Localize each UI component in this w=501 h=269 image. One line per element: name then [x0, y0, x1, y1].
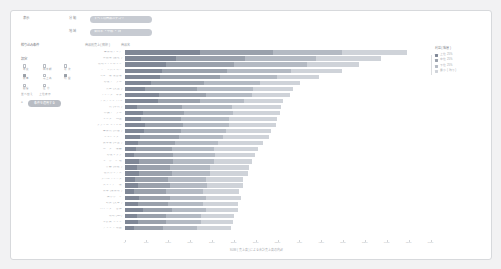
bar-segment[interactable]: [158, 99, 200, 103]
bar-segment[interactable]: [145, 87, 197, 91]
bar-segment[interactable]: [200, 99, 245, 103]
bar-segment[interactable]: [182, 105, 232, 109]
bar-segment[interactable]: [162, 69, 227, 73]
bar-row[interactable]: 収納キャビネット: [83, 62, 431, 68]
checkbox-item[interactable]: 区 分: [43, 84, 62, 91]
bar-segment[interactable]: [245, 56, 316, 60]
bar-row[interactable]: バインダー 各種: [83, 207, 431, 213]
bar-row[interactable]: 筆記具 セット: [83, 219, 431, 225]
bar-row[interactable]: ノートパソコン: [83, 68, 431, 74]
bar-segment[interactable]: [125, 208, 143, 212]
bar-segment[interactable]: [166, 214, 200, 218]
bar-segment[interactable]: [233, 111, 280, 115]
bar-segment[interactable]: [173, 159, 213, 163]
bar-segment[interactable]: [144, 129, 182, 133]
checkbox-item[interactable]: 顧 客: [23, 84, 42, 91]
bar-segment[interactable]: [166, 189, 203, 193]
bar-segment[interactable]: [125, 177, 135, 181]
bar-segment[interactable]: [125, 50, 200, 54]
bar-segment[interactable]: [229, 117, 278, 121]
bar-segment[interactable]: [125, 135, 141, 139]
bar-segment[interactable]: [206, 93, 252, 97]
bar-segment[interactable]: [220, 75, 278, 79]
bar-row[interactable]: 封筒 ( 大量 ): [83, 201, 431, 207]
bar-segment[interactable]: [214, 147, 259, 151]
bar-segment[interactable]: [183, 123, 229, 127]
bar-segment[interactable]: [273, 50, 342, 54]
bar-segment[interactable]: [214, 159, 252, 163]
checkbox-item[interactable]: 四半期: [43, 64, 62, 71]
bar-segment[interactable]: [125, 196, 140, 200]
bar-segment[interactable]: [181, 129, 226, 133]
bar-segment[interactable]: [125, 81, 151, 85]
bar-row[interactable]: ラベルプリンタ: [83, 176, 431, 182]
bar-row[interactable]: 保管ボックス: [83, 170, 431, 176]
bar-row[interactable]: デスクトップ PC: [83, 98, 431, 104]
bar-segment[interactable]: [125, 147, 136, 151]
bar-segment[interactable]: [253, 87, 293, 91]
bar-segment[interactable]: [226, 129, 271, 133]
bar-segment[interactable]: [125, 141, 139, 145]
bar-segment[interactable]: [168, 202, 203, 206]
bar-segment[interactable]: [206, 177, 244, 181]
bar-segment[interactable]: [203, 189, 239, 193]
bar-segment[interactable]: [138, 202, 169, 206]
bar-segment[interactable]: [291, 69, 343, 73]
bar-segment[interactable]: [232, 105, 281, 109]
bar-segment[interactable]: [200, 50, 273, 54]
bar-segment[interactable]: [316, 56, 381, 60]
bar-segment[interactable]: [125, 226, 135, 230]
bar-row[interactable]: プリンター本体: [83, 92, 431, 98]
bar-segment[interactable]: [125, 183, 139, 187]
bar-segment[interactable]: [138, 183, 169, 187]
checkbox-item[interactable]: 利 益: [64, 74, 83, 81]
bar-segment[interactable]: [137, 105, 182, 109]
bar-segment[interactable]: [139, 159, 173, 163]
bar-segment[interactable]: [137, 214, 167, 218]
bar-row[interactable]: クリップ 用品: [83, 225, 431, 231]
bar-segment[interactable]: [138, 220, 167, 224]
bar-segment[interactable]: [175, 141, 218, 145]
bar-segment[interactable]: [134, 153, 172, 157]
bar-segment[interactable]: [143, 208, 172, 212]
bar-row[interactable]: 机 ( 平机 ): [83, 104, 431, 110]
bar-segment[interactable]: [176, 56, 245, 60]
filter-dropdown-region[interactable]: 東日本 ・ 中部 ・ 西: [90, 29, 152, 36]
bar-segment[interactable]: [139, 196, 170, 200]
bar-row[interactable]: ファイル キャビネ: [83, 122, 431, 128]
bar-segment[interactable]: [203, 202, 238, 206]
bar-row[interactable]: シュレッダー: [83, 134, 431, 140]
bar-segment[interactable]: [218, 141, 263, 145]
bar-segment[interactable]: [252, 93, 290, 97]
bar-row[interactable]: 電卓 ( 業務用 ): [83, 189, 431, 195]
apply-filters-button[interactable]: 条件を適用する: [28, 100, 61, 107]
bar-row[interactable]: 事務用チェア: [83, 50, 431, 56]
bar-segment[interactable]: [223, 135, 268, 139]
bar-segment[interactable]: [215, 153, 255, 157]
bar-row[interactable]: 応接ソファ: [83, 152, 431, 158]
bar-segment[interactable]: [210, 165, 248, 169]
bar-segment[interactable]: [172, 208, 206, 212]
bar-segment[interactable]: [143, 111, 184, 115]
bar-segment[interactable]: [125, 117, 142, 121]
bar-segment[interactable]: [166, 62, 233, 66]
bar-segment[interactable]: [125, 159, 140, 163]
bar-segment[interactable]: [125, 123, 145, 127]
bar-segment[interactable]: [125, 214, 137, 218]
bar-segment[interactable]: [139, 171, 171, 175]
filter-dropdown-category[interactable]: すべての商品カテゴリ: [90, 16, 152, 23]
bar-segment[interactable]: [125, 171, 140, 175]
bar-segment[interactable]: [125, 153, 135, 157]
bar-segment[interactable]: [125, 111, 143, 115]
bar-row[interactable]: 掲示ボード: [83, 195, 431, 201]
bar-segment[interactable]: [134, 226, 163, 230]
bar-segment[interactable]: [172, 147, 214, 151]
checkbox-item[interactable]: 年 度: [23, 64, 42, 71]
bar-segment[interactable]: [201, 220, 233, 224]
bar-segment[interactable]: [134, 189, 166, 193]
bar-segment[interactable]: [125, 189, 135, 193]
bar-segment[interactable]: [181, 117, 228, 121]
bar-segment[interactable]: [229, 123, 275, 127]
bar-segment[interactable]: [125, 220, 138, 224]
bar-segment[interactable]: [197, 226, 231, 230]
